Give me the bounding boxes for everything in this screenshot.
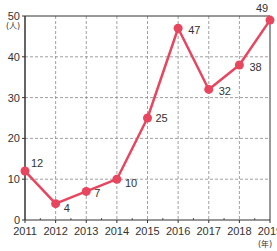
data-label: 38 (249, 61, 261, 73)
data-labels: 1247102547323849 (31, 2, 268, 214)
data-label: 47 (188, 24, 200, 36)
data-point (266, 16, 275, 25)
x-tick-label: 2011 (13, 225, 37, 237)
data-label: 32 (219, 85, 231, 97)
y-tick-label: 10 (8, 173, 20, 185)
data-point (82, 187, 91, 196)
x-tick-label: 2017 (197, 225, 221, 237)
data-point (174, 24, 183, 33)
data-point (21, 167, 30, 176)
x-tick-label: 2013 (74, 225, 98, 237)
data-label: 12 (31, 157, 43, 169)
y-tick-label: 30 (8, 92, 20, 104)
data-point (112, 175, 121, 184)
data-label: 4 (64, 202, 70, 214)
y-axis-ticks: 01020304050 (8, 10, 25, 226)
x-axis-unit-label: (年) (258, 239, 272, 249)
data-point (204, 85, 213, 94)
y-tick-label: 40 (8, 51, 20, 63)
x-tick-label: 2012 (43, 225, 67, 237)
x-axis-ticks: 201120122013201420152016201720182019 (13, 218, 277, 237)
x-tick-label: 2016 (166, 225, 190, 237)
data-label: 10 (125, 177, 137, 189)
y-tick-label: 20 (8, 132, 20, 144)
line-chart: 01020304050 2011201220132014201520162017… (0, 0, 277, 251)
data-label: 25 (156, 112, 168, 124)
data-point (51, 199, 60, 208)
x-tick-label: 2014 (105, 225, 129, 237)
y-tick-label: 50 (8, 10, 20, 22)
data-label: 49 (256, 2, 268, 14)
y-axis-unit-label: (人) (6, 22, 20, 31)
data-point (143, 114, 152, 123)
x-tick-label: 2019 (258, 225, 277, 237)
data-point (235, 60, 244, 69)
data-label: 7 (94, 187, 100, 199)
x-tick-label: 2018 (227, 225, 251, 237)
x-tick-label: 2015 (135, 225, 159, 237)
